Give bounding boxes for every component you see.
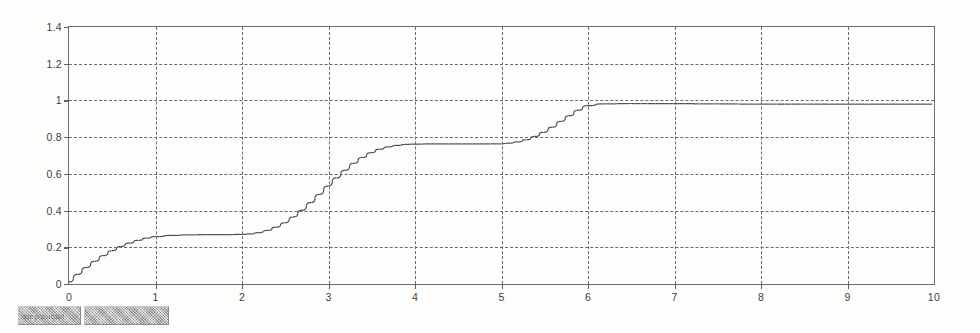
y-axis-label: 1.4	[47, 21, 63, 33]
curve-svg	[69, 27, 934, 284]
x-axis-tick	[329, 284, 330, 289]
x-axis-tick	[588, 284, 589, 289]
figure-root: 00.20.40.60.811.21.4012345678910 step ou…	[0, 0, 980, 333]
plot-area: 00.20.40.60.811.21.4012345678910	[68, 26, 935, 285]
x-axis-label: 10	[928, 291, 940, 303]
y-axis-label: 1	[56, 94, 62, 106]
y-axis-label: 0.6	[47, 168, 63, 180]
y-axis-tick	[64, 174, 69, 175]
y-axis-label: 1.2	[47, 58, 63, 70]
bottom-toolbar: step output	[18, 306, 169, 325]
x-axis-label: 9	[844, 291, 850, 303]
x-axis-label: 0	[66, 291, 72, 303]
y-axis-label: 0.8	[47, 131, 63, 143]
y-axis-label: 0.2	[47, 241, 63, 253]
y-axis-label: 0	[56, 278, 62, 290]
y-axis-tick	[64, 211, 69, 212]
x-axis-tick	[761, 284, 762, 289]
x-axis-tick	[156, 284, 157, 289]
x-axis-label: 8	[758, 291, 764, 303]
y-axis-tick	[64, 247, 69, 248]
x-axis-tick	[675, 284, 676, 289]
x-axis-tick	[242, 284, 243, 289]
step-response-curve	[69, 104, 932, 283]
y-axis-tick	[64, 64, 69, 65]
toolbar-blank-box[interactable]	[84, 306, 169, 325]
x-axis-label: 6	[585, 291, 591, 303]
x-axis-label: 5	[498, 291, 504, 303]
x-axis-label: 4	[412, 291, 418, 303]
x-axis-label: 7	[671, 291, 677, 303]
x-axis-label: 1	[152, 291, 158, 303]
toolbar-label-text: step output	[23, 311, 65, 320]
x-axis-label: 2	[239, 291, 245, 303]
toolbar-label-box[interactable]: step output	[18, 306, 81, 325]
x-axis-tick	[415, 284, 416, 289]
x-axis-tick	[848, 284, 849, 289]
x-axis-tick	[502, 284, 503, 289]
y-axis-tick	[64, 137, 69, 138]
y-axis-label: 0.4	[47, 205, 63, 217]
y-axis-tick	[64, 27, 69, 28]
y-axis-tick	[64, 284, 69, 285]
y-axis-tick	[64, 100, 69, 101]
x-axis-label: 3	[325, 291, 331, 303]
